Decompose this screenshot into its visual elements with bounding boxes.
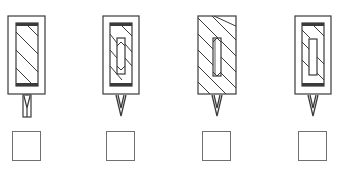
answer-checkbox-d[interactable]	[298, 131, 327, 161]
needle-lead	[212, 95, 222, 116]
figure-c	[198, 2, 240, 124]
bottom-cap	[110, 83, 132, 86]
figure-a	[8, 14, 45, 117]
split-pin-lead	[23, 95, 31, 117]
figure-d	[295, 16, 331, 116]
answer-checkbox-a[interactable]	[12, 131, 41, 161]
center-slot	[213, 38, 221, 76]
figure-b	[103, 16, 139, 116]
answer-checkbox-b[interactable]	[106, 131, 135, 161]
center-slot	[309, 39, 317, 75]
figures-diagram	[0, 0, 349, 180]
bottom-cap	[302, 83, 324, 86]
needle-lead	[116, 95, 126, 116]
needle-lead	[308, 95, 318, 116]
answer-checkbox-c[interactable]	[202, 131, 231, 161]
outer-frame	[8, 16, 45, 94]
center-slot	[117, 38, 125, 74]
bottom-cap	[16, 83, 38, 86]
